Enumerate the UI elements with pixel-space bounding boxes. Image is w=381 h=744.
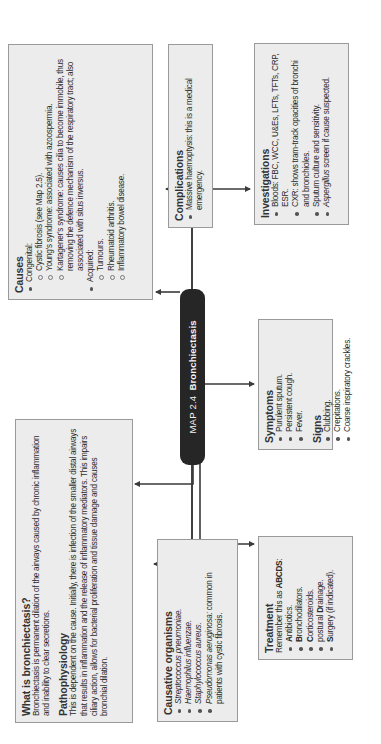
treatment-item: Bronchodilators. bbox=[295, 543, 305, 653]
treatment-intro-text: Remember this as bbox=[275, 589, 284, 653]
investigations-box: Investigations Bloods: FBC, WCC, U&Es, L… bbox=[254, 43, 349, 225]
investigations-heading: Investigations bbox=[259, 50, 271, 218]
symptom-item: Purulent sputum. bbox=[275, 326, 285, 443]
causes-congenital-item: Cystic fibrosis (see Map 2.5). bbox=[35, 51, 45, 282]
pathophysiology-heading: Pathophysiology bbox=[57, 426, 69, 716]
organisms-heading: Causative organisms bbox=[162, 546, 174, 715]
congenital-label: Congenital: bbox=[25, 243, 34, 282]
sign-item: Clubbing. bbox=[323, 326, 333, 443]
causes-box: Causes Congenital: Cystic fibrosis (see … bbox=[8, 44, 153, 300]
causes-acquired-item: Inflammatory bowel disease. bbox=[117, 51, 127, 282]
map-title-pill: MAP 2.4 Bronchiectasis bbox=[180, 289, 205, 465]
symptom-item: Fever. bbox=[295, 326, 305, 443]
investigations-item: Bloods: FBC, WCC, U&Es, LFTs, TFTs, CRP,… bbox=[271, 50, 291, 218]
causes-acquired-item: Rheumatoid arthritis. bbox=[107, 51, 117, 282]
causes-congenital: Congenital: Cystic fibrosis (see Map 2.5… bbox=[25, 51, 86, 293]
causes-congenital-item: Kartagener's syndrome: causes cilia to b… bbox=[56, 51, 87, 282]
aspergillus-rest: screen if cause suspected. bbox=[322, 77, 331, 169]
investigations-item: Sputum culture and sensitivity. bbox=[312, 50, 322, 218]
what-is-text: Bronchiectasis is permanent dilation of … bbox=[32, 426, 52, 716]
organism-item: Staphylococcus aureus. bbox=[194, 546, 204, 715]
treatment-rest: urgery (if indicated). bbox=[326, 570, 335, 637]
organism-item: Haemophilus influenzae. bbox=[184, 546, 194, 715]
aspergillus-text: Aspergillus bbox=[322, 170, 331, 207]
investigations-item: Aspergillus screen if cause suspected. bbox=[322, 50, 332, 218]
treatment-letter: S bbox=[326, 637, 335, 642]
causes-acquired: Acquired: Tumours. Rheumatoid arthritis.… bbox=[86, 51, 127, 293]
treatment-letter: A bbox=[285, 636, 294, 642]
investigations-item: CXR: shows tram-track opacities of bronc… bbox=[291, 50, 311, 218]
organisms-box: Causative organisms Streptococcus pneumo… bbox=[157, 539, 238, 722]
causes-heading: Causes bbox=[13, 51, 25, 293]
map-title: Bronchiectasis bbox=[187, 320, 198, 390]
sign-item: Coarse inspiratory crackles. bbox=[343, 326, 353, 443]
what-is-box: What is bronchiectasis? Bronchiectasis i… bbox=[15, 419, 133, 723]
complications-box: Complications Massive haemoptysis: this … bbox=[168, 44, 213, 228]
organism-item: Pseudomonas aeruginosa: common in patien… bbox=[205, 546, 225, 715]
symptoms-heading: Symptoms bbox=[263, 326, 275, 443]
symptoms-signs-box: Symptoms Purulent sputum. Persistent cou… bbox=[258, 319, 333, 450]
treatment-rest: rainage. bbox=[316, 580, 325, 608]
organism-item: Streptococcus pneumoniae. bbox=[174, 546, 184, 715]
treatment-pre: postural bbox=[316, 613, 325, 642]
treatment-item: postural Drainage. bbox=[316, 543, 326, 653]
what-is-heading: What is bronchiectasis? bbox=[20, 426, 32, 716]
acquired-label: Acquired: bbox=[86, 250, 95, 282]
treatment-item: Corticosteroids. bbox=[306, 543, 316, 653]
map-number: MAP 2.4 bbox=[187, 396, 198, 434]
treatment-letter: B bbox=[295, 636, 304, 642]
treatment-rest: ronchodilators. bbox=[295, 586, 304, 636]
treatment-mnemonic: ABCDS bbox=[275, 561, 284, 589]
complications-item: Massive haemoptysis: this is a medical e… bbox=[185, 51, 205, 221]
treatment-intro-end: : bbox=[275, 559, 284, 561]
treatment-heading: Treatment bbox=[263, 543, 275, 653]
treatment-box: Treatment Remember this as ABCDS: Antibi… bbox=[258, 536, 353, 660]
complications-heading: Complications bbox=[173, 51, 185, 221]
treatment-rest: ntibiotics. bbox=[285, 605, 294, 636]
pathophysiology-text: This is dependent on the cause. Initiall… bbox=[69, 426, 110, 716]
treatment-intro: Remember this as ABCDS: bbox=[275, 543, 285, 653]
pseudomonas-text: Pseudomonas aeruginosa: bbox=[205, 612, 214, 704]
signs-heading: Signs bbox=[311, 326, 323, 443]
treatment-letter: C bbox=[306, 636, 315, 642]
treatment-item: Antibiotics. bbox=[285, 543, 295, 653]
causes-acquired-item: Tumours. bbox=[96, 51, 106, 282]
causes-congenital-item: Young's syndrome: associated with azoosp… bbox=[45, 51, 55, 282]
sign-item: Crepitations. bbox=[333, 326, 343, 443]
concept-map-page: Causes Congenital: Cystic fibrosis (see … bbox=[0, 0, 381, 744]
symptom-item: Persistent cough. bbox=[285, 326, 295, 443]
treatment-item: Surgery (if indicated). bbox=[326, 543, 336, 653]
treatment-letter: D bbox=[316, 607, 325, 613]
treatment-rest: orticosteroids. bbox=[306, 589, 315, 636]
